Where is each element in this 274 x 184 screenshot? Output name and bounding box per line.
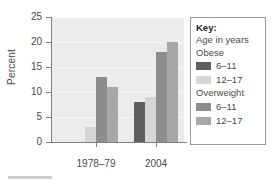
legend-label-obese-12-17: 12–17	[216, 74, 242, 86]
bar	[156, 52, 167, 142]
bar	[96, 77, 107, 142]
legend-title: Key:	[196, 22, 265, 34]
legend-label-overweight-6-11: 6–11	[216, 101, 236, 113]
legend-subtitle: Age in years	[196, 34, 265, 47]
y-tick-mark	[46, 117, 52, 118]
y-tick-label: 20	[14, 36, 42, 47]
chart-legend: Key: Age in years Obese 6–11 12–17 Overw…	[190, 17, 266, 145]
x-tick-label: 2004	[126, 158, 186, 169]
legend-swatch-overweight-12-17	[196, 117, 211, 125]
legend-item-obese-12-17: 12–17	[196, 73, 265, 87]
legend-swatch-obese-6-11	[196, 62, 211, 70]
bar	[145, 97, 156, 142]
bar	[167, 42, 178, 142]
x-tick-mark	[96, 142, 97, 147]
legend-swatch-overweight-6-11	[196, 103, 211, 111]
legend-item-overweight-12-17: 12–17	[196, 114, 265, 128]
x-tick-label: 1978–79	[66, 158, 126, 169]
legend-swatch-obese-12-17	[196, 76, 211, 84]
y-tick-mark	[46, 67, 52, 68]
bar	[107, 87, 118, 142]
bottom-rule-decoration	[8, 176, 52, 179]
bar	[85, 127, 96, 142]
bar-group	[134, 17, 178, 142]
y-axis-line	[51, 17, 52, 143]
legend-item-obese-6-11: 6–11	[196, 59, 265, 73]
legend-label-obese-6-11: 6–11	[216, 60, 236, 72]
y-tick-mark	[46, 142, 52, 143]
x-axis-line	[51, 142, 187, 143]
y-tick-mark	[46, 92, 52, 93]
legend-label-overweight-12-17: 12–17	[216, 115, 242, 127]
x-tick-mark	[156, 142, 157, 147]
legend-item-overweight-6-11: 6–11	[196, 100, 265, 114]
bar-chart-figure: Percent 0510152025 1978–792004 Key: Age …	[0, 0, 274, 184]
y-tick-label: 25	[14, 11, 42, 22]
y-tick-label: 5	[14, 111, 42, 122]
y-tick-mark	[46, 42, 52, 43]
legend-group-overweight: Overweight	[196, 87, 265, 100]
bar-group	[74, 17, 118, 142]
legend-group-obese: Obese	[196, 47, 265, 60]
y-tick-label: 0	[14, 136, 42, 147]
y-tick-label: 15	[14, 61, 42, 72]
plot-area	[52, 17, 184, 142]
y-tick-label: 10	[14, 86, 42, 97]
y-tick-mark	[46, 17, 52, 18]
bar	[134, 102, 145, 142]
